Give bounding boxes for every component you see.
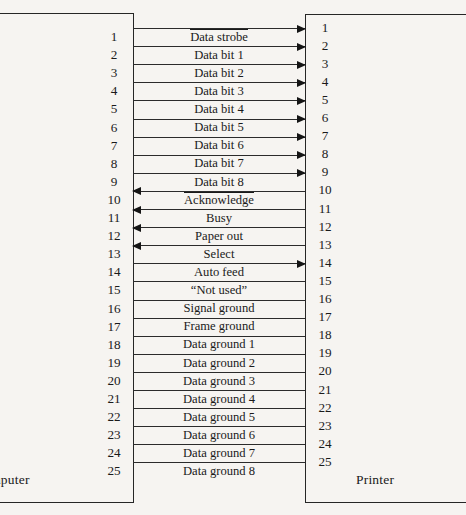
signal-wire [133,372,305,373]
signal-row: Frame ground1717 [0,318,419,336]
signal-label-text: Data ground 8 [183,464,255,478]
signal-row: Busy1111 [0,209,419,227]
signal-label-text: Data ground 6 [183,428,255,442]
signal-label: Data bit 4 [133,103,305,116]
signal-wire [133,119,305,120]
signal-wire [133,281,305,282]
signal-row: “Not used”1515 [0,281,419,299]
pin-number-computer: 7 [101,138,127,154]
pin-number-printer: 24 [312,436,338,452]
signal-wire [133,209,305,210]
signal-label-text: Data ground 3 [183,374,255,388]
signal-label: Data ground 8 [133,465,305,478]
pin-number-computer: 12 [101,228,127,244]
signal-label: Data bit 7 [133,157,305,170]
signal-wire [133,155,305,156]
pin-number-printer: 25 [312,454,338,470]
signal-row: Data bit 344 [0,82,419,100]
signal-label: Data ground 2 [133,357,305,370]
pin-number-computer: 11 [101,210,127,226]
signal-row: Data ground 42121 [0,390,419,408]
signal-label: Data bit 1 [133,49,305,62]
pin-number-computer: 21 [101,391,127,407]
arrow-right-icon [297,61,306,69]
signal-label-text: Data bit 1 [194,48,244,62]
arrow-right-icon [297,97,306,105]
signal-label-text: Data bit 7 [194,156,244,170]
pin-number-printer: 11 [312,201,338,217]
signal-wire [133,64,305,65]
signal-label: Data strobe [133,31,305,44]
signal-label: Data ground 3 [133,375,305,388]
signal-label-text: Data bit 6 [194,138,244,152]
signal-label-text: Auto feed [194,265,244,279]
signal-label-text: Select [204,247,235,261]
signal-label-text: Data bit 2 [194,66,244,80]
signal-label: Select [133,248,305,261]
arrow-right-icon [297,115,306,123]
pin-number-computer: 2 [101,47,127,63]
signal-label-text: Data bit 3 [194,84,244,98]
signal-wire [133,263,305,264]
signal-wire [133,462,305,463]
pin-number-computer: 16 [101,301,127,317]
pin-number-printer: 15 [312,273,338,289]
arrow-left-icon [132,224,141,232]
arrow-right-icon [297,25,306,33]
pin-number-printer: 4 [312,74,338,90]
signal-label: Data bit 8 [133,176,305,189]
signal-label: Auto feed [133,266,305,279]
signal-label-text: Data bit 5 [194,120,244,134]
pin-number-computer: 4 [101,83,127,99]
signal-row: Auto feed1414 [0,263,419,281]
pin-number-computer: 10 [101,192,127,208]
signal-label: Paper out [133,230,305,243]
signal-row: Acknowledge1010 [0,191,419,209]
signal-label: Acknowledge [133,194,305,207]
signal-label-text: Signal ground [183,301,254,315]
pin-number-computer: 14 [101,264,127,280]
signal-row: Data bit 122 [0,46,419,64]
signal-label: Data ground 1 [133,338,305,351]
signal-wire [133,245,305,246]
signal-label: Data ground 6 [133,429,305,442]
signal-row: Data ground 21919 [0,354,419,372]
pin-number-computer: 25 [101,463,127,479]
signal-wire [133,408,305,409]
signal-label-text: Data bit 4 [194,102,244,116]
signal-label: Data bit 5 [133,121,305,134]
signal-wire [133,173,305,174]
pin-number-computer: 22 [101,409,127,425]
signal-row: Data bit 677 [0,137,419,155]
pin-number-printer: 3 [312,56,338,72]
pin-number-computer: 1 [101,29,127,45]
signal-wire [133,227,305,228]
pin-number-computer: 23 [101,427,127,443]
arrow-right-icon [297,169,306,177]
pin-number-printer: 18 [312,327,338,343]
signal-row: Data bit 233 [0,64,419,82]
signal-row: Data ground 32020 [0,372,419,390]
arrow-left-icon [132,187,141,195]
signal-label-text: Data ground 4 [183,392,255,406]
pin-number-printer: 6 [312,110,338,126]
pin-number-printer: 13 [312,237,338,253]
signal-row: Select1313 [0,245,419,263]
signal-label: Busy [133,212,305,225]
signal-label: “Not used” [133,284,305,297]
arrow-left-icon [132,242,141,250]
signal-label-text: Paper out [195,229,243,243]
pin-number-computer: 20 [101,373,127,389]
signal-wire [133,426,305,427]
signal-label: Data ground 5 [133,411,305,424]
signal-row: Data strobe11 [0,28,419,46]
signal-wire [133,300,305,301]
signal-wire [133,336,305,337]
signal-label-text: Acknowledge [184,192,254,207]
signal-row: Data bit 455 [0,100,419,118]
signal-row: Signal ground1616 [0,300,419,318]
signal-label: Data ground 7 [133,447,305,460]
signal-wire [133,318,305,319]
pin-number-printer: 5 [312,92,338,108]
